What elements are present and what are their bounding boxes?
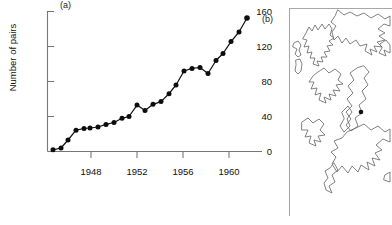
data-point <box>214 58 219 63</box>
data-point <box>51 147 56 152</box>
data-point <box>82 126 87 131</box>
panel-b-map: (b) <box>272 0 392 225</box>
y-axis-ticks <box>48 12 55 152</box>
figure-root: (a) Number of pairs 160 120 80 40 0 1948… <box>0 0 392 225</box>
data-point <box>221 51 226 56</box>
coastline-landmass-south <box>331 124 390 173</box>
coastline-outline <box>293 10 390 193</box>
data-point <box>66 138 71 143</box>
data-point <box>88 126 93 131</box>
data-point <box>167 91 172 96</box>
data-point <box>143 108 148 113</box>
coastline-island-sliver <box>340 106 352 132</box>
plot-area <box>0 0 272 225</box>
data-point <box>104 122 109 127</box>
data-point <box>96 125 101 130</box>
coastline-islet-w2 <box>295 59 302 74</box>
map-area <box>272 0 392 225</box>
coastline-fragment-e1 <box>379 40 390 56</box>
data-point <box>159 99 164 104</box>
data-point <box>127 114 132 119</box>
coastline-mainland-north <box>331 10 390 55</box>
data-point <box>120 116 125 121</box>
data-point <box>237 30 242 35</box>
panel-a-line-chart: (a) Number of pairs 160 120 80 40 0 1948… <box>0 0 272 225</box>
data-point <box>244 15 250 21</box>
coastline-island-diagonal <box>346 66 369 131</box>
data-point <box>174 83 179 88</box>
data-point <box>74 128 79 133</box>
data-point <box>151 102 156 107</box>
data-point <box>59 146 64 151</box>
x-axis-ticks <box>91 152 229 159</box>
data-point-markers <box>51 15 250 152</box>
data-point <box>229 39 234 44</box>
coastline-fragment-e2 <box>384 172 390 182</box>
data-point <box>182 69 187 74</box>
data-point <box>198 65 203 70</box>
coastline-spit-sw <box>324 163 338 193</box>
coastline-islet-w1 <box>293 41 301 57</box>
data-point <box>190 66 195 71</box>
colony-location-dot <box>359 110 364 115</box>
data-point <box>112 120 117 125</box>
data-point <box>135 103 140 108</box>
coastline-island-sw <box>302 118 325 146</box>
coastline-island-nw <box>303 24 334 66</box>
data-point <box>206 71 211 76</box>
coastline-lobe-mid <box>309 68 343 103</box>
